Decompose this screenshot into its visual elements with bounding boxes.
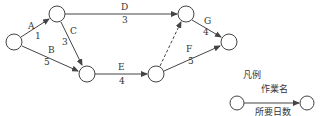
node-3: [79, 66, 95, 82]
legend-activity-name-label: 作業名: [261, 83, 288, 94]
activity-c-name: C: [70, 26, 77, 36]
arrow-diagram: A 1 B 5 C 3 D 3 E 4 F 5 G 4 凡例 作業名 所要日数: [0, 0, 321, 116]
legend-start-node: [230, 96, 244, 110]
legend-title: 凡例: [243, 69, 261, 80]
node-6: [221, 34, 237, 50]
activity-d-days: 3: [122, 15, 128, 25]
node-4: [148, 66, 164, 82]
activity-g-name: G: [204, 16, 211, 26]
legend-duration-label: 所要日数: [255, 106, 291, 116]
activity-a-days: 1: [35, 31, 41, 41]
activity-f-name: F: [186, 44, 192, 54]
activity-d-name: D: [121, 2, 128, 12]
dummy-activity-arrow: [160, 22, 181, 66]
node-5: [178, 6, 194, 22]
activity-b-days: 5: [44, 57, 50, 67]
activity-f-days: 5: [188, 56, 194, 66]
legend-end-node: [300, 96, 314, 110]
activity-b-name: B: [48, 45, 55, 55]
activity-g-days: 4: [203, 27, 209, 37]
activity-e-days: 4: [119, 76, 125, 86]
activity-a-name: A: [27, 21, 35, 31]
activity-e-name: E: [118, 62, 125, 72]
legend: 凡例 作業名 所要日数: [230, 69, 314, 116]
activity-c-days: 3: [62, 37, 68, 47]
node-1: [6, 34, 22, 50]
node-2: [49, 6, 65, 22]
